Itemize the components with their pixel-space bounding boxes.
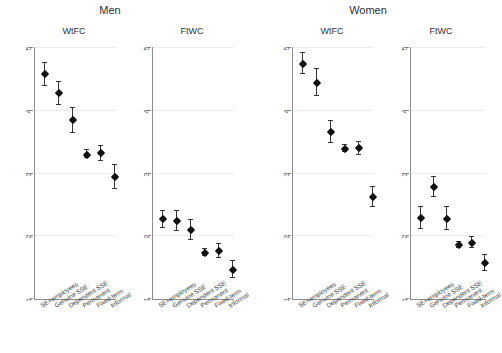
error-bar-cap <box>431 176 436 177</box>
error-bar-cap <box>300 73 305 74</box>
data-point-marker <box>354 143 362 151</box>
data-point-marker <box>172 216 180 224</box>
y-tick-label: 4 <box>283 110 290 126</box>
error-bar-cap <box>160 210 165 211</box>
y-tick-label: 3 <box>25 173 32 189</box>
gridline <box>152 47 234 48</box>
error-bar-cap <box>98 160 103 161</box>
error-bar-cap <box>431 196 436 197</box>
y-tick-label: 2 <box>25 235 32 251</box>
y-tick-label: 3 <box>283 173 290 189</box>
gridline <box>34 235 116 236</box>
gridline <box>410 235 486 236</box>
error-bar-cap <box>418 206 423 207</box>
data-point-marker <box>442 214 450 222</box>
data-point-marker <box>298 59 306 67</box>
gridline <box>34 47 116 48</box>
gridline <box>292 110 374 111</box>
error-bar-cap <box>444 206 449 207</box>
y-tick-label: 2 <box>401 235 408 251</box>
data-point-marker <box>40 69 48 77</box>
data-point-marker <box>368 192 376 200</box>
error-bar-cap <box>174 210 179 211</box>
data-point-marker <box>326 127 334 135</box>
gridline <box>152 235 234 236</box>
y-tick-label: 1 <box>143 298 150 314</box>
error-bar-cap <box>444 229 449 230</box>
data-point-marker <box>68 115 76 123</box>
error-bar-cap <box>370 206 375 207</box>
y-tick-label: 1 <box>401 298 408 314</box>
group-title-men: Men <box>30 4 190 16</box>
y-tick-label: 3 <box>143 173 150 189</box>
y-tick-label: 3 <box>401 173 408 189</box>
panel-title-men-ftwc: FtWC <box>142 26 242 36</box>
gridline <box>410 173 486 174</box>
panel-title-men-wtfc: WtFC <box>24 26 124 36</box>
error-bar-cap <box>216 243 221 244</box>
gridline <box>34 173 116 174</box>
y-axis-line <box>410 47 411 300</box>
data-point-marker <box>96 148 104 156</box>
y-tick-label: 5 <box>25 47 32 63</box>
y-axis-line <box>292 47 293 300</box>
error-bar-cap <box>70 107 75 108</box>
data-point-marker <box>158 214 166 222</box>
gridline <box>410 47 486 48</box>
data-point-marker <box>467 238 475 246</box>
gridline <box>292 47 374 48</box>
error-bar-cap <box>482 270 487 271</box>
y-tick-label: 4 <box>401 110 408 126</box>
error-bar-cap <box>370 186 375 187</box>
group-title-women: Women <box>288 4 448 16</box>
data-point-marker <box>186 225 194 233</box>
error-bar-cap <box>112 164 117 165</box>
data-point-marker <box>54 88 62 96</box>
y-tick-label: 5 <box>401 47 408 63</box>
data-point-marker <box>416 213 424 221</box>
data-point-marker <box>429 182 437 190</box>
y-tick-label: 5 <box>283 47 290 63</box>
error-bar-cap <box>469 236 474 237</box>
error-bar-cap <box>216 257 221 258</box>
error-bar-cap <box>314 68 319 69</box>
y-axis-line <box>34 47 35 300</box>
error-bar-cap <box>188 239 193 240</box>
error-bar-cap <box>328 142 333 143</box>
y-tick-label: 4 <box>143 110 150 126</box>
error-bar-cap <box>418 228 423 229</box>
gridline <box>152 173 234 174</box>
error-bar-cap <box>174 230 179 231</box>
data-point-marker <box>214 246 222 254</box>
error-bar-cap <box>230 277 235 278</box>
data-point-marker <box>480 258 488 266</box>
error-bar-cap <box>42 62 47 63</box>
error-bar-cap <box>300 52 305 53</box>
panel-title-women-ftwc: FtWC <box>391 26 491 36</box>
error-bar-cap <box>160 227 165 228</box>
error-bar-cap <box>56 104 61 105</box>
gridline <box>410 110 486 111</box>
panel-title-women-wtfc: WtFC <box>282 26 382 36</box>
error-bar-cap <box>188 219 193 220</box>
y-axis-line <box>152 47 153 300</box>
gridline <box>292 235 374 236</box>
error-bar-cap <box>356 154 361 155</box>
data-point-marker <box>312 78 320 86</box>
error-bar-cap <box>314 95 319 96</box>
gridline <box>34 110 116 111</box>
y-tick-label: 5 <box>143 47 150 63</box>
error-bar-cap <box>42 85 47 86</box>
data-point-marker <box>228 265 236 273</box>
y-tick-label: 2 <box>143 235 150 251</box>
y-tick-label: 2 <box>283 235 290 251</box>
error-bar-cap <box>112 188 117 189</box>
error-bar-cap <box>482 254 487 255</box>
error-bar-cap <box>98 145 103 146</box>
gridline <box>152 110 234 111</box>
error-bar-cap <box>70 132 75 133</box>
y-tick-label: 1 <box>25 298 32 314</box>
error-bar-cap <box>328 120 333 121</box>
error-bar-cap <box>230 260 235 261</box>
error-bar-cap <box>356 141 361 142</box>
